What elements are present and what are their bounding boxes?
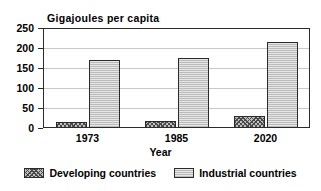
bar-1985-developing: [145, 121, 176, 128]
y-axis-tick-mark: [38, 128, 43, 129]
y-axis-tick-label: 100: [16, 82, 34, 94]
y-axis-tick-label: 250: [16, 22, 34, 34]
bar-1973-developing: [56, 122, 87, 128]
y-axis-tick-label: 150: [16, 62, 34, 74]
y-axis: 050100150200250: [0, 0, 43, 191]
x-axis-tick-label: 1985: [165, 132, 188, 144]
legend-item-developing: Developing countries: [24, 167, 156, 179]
legend-swatch-icon: [174, 168, 194, 178]
bar-1985-industrial: [178, 58, 209, 128]
legend-item-label: Industrial countries: [199, 167, 296, 179]
legend-item-label: Developing countries: [49, 167, 156, 179]
bars-layer: [43, 28, 310, 128]
bar-1973-industrial: [89, 60, 120, 128]
x-axis-tick-label: 1973: [76, 132, 99, 144]
x-axis-tick-label: 2020: [254, 132, 277, 144]
chart-title: Gigajoules per capita: [47, 12, 160, 24]
bar-chart: Gigajoules per capita 050100150200250 Ye…: [0, 0, 321, 191]
chart-legend: Developing countriesIndustrial countries: [0, 167, 321, 179]
y-axis-tick-label: 200: [16, 42, 34, 54]
y-axis-tick-label: 0: [28, 122, 34, 134]
legend-swatch-icon: [24, 168, 44, 178]
legend-item-industrial: Industrial countries: [174, 167, 296, 179]
bar-2020-industrial: [267, 42, 298, 128]
y-axis-tick-label: 50: [22, 102, 34, 114]
bar-2020-developing: [234, 116, 265, 128]
x-axis-label: Year: [0, 146, 321, 158]
